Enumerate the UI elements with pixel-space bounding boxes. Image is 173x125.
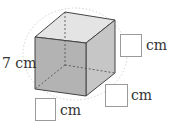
unit-label-right-bottom: cm xyxy=(131,88,152,102)
answer-box-right-top[interactable] xyxy=(120,34,142,57)
given-edge-label: 7 cm xyxy=(2,56,36,70)
unit-label-bottom-left: cm xyxy=(60,103,81,117)
cube-front-face xyxy=(35,37,86,96)
answer-box-bottom-left[interactable] xyxy=(35,98,56,121)
answer-box-right-bottom[interactable] xyxy=(105,84,128,107)
unit-label-right-top: cm xyxy=(146,38,167,52)
